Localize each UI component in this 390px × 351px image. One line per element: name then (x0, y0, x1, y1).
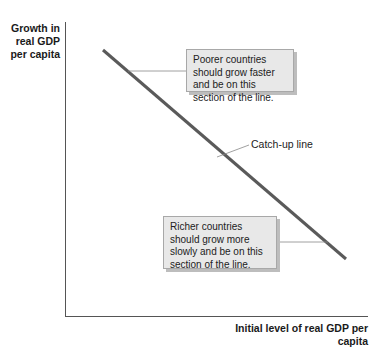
richer-countries-note: Richer countries should grow more slowly… (163, 216, 277, 269)
x-axis-label: Initial level of real GDP per capita (218, 322, 368, 348)
poorer-countries-note: Poorer countries should grow faster and … (186, 49, 294, 92)
catch-up-line-label: Catch-up line (251, 138, 313, 150)
